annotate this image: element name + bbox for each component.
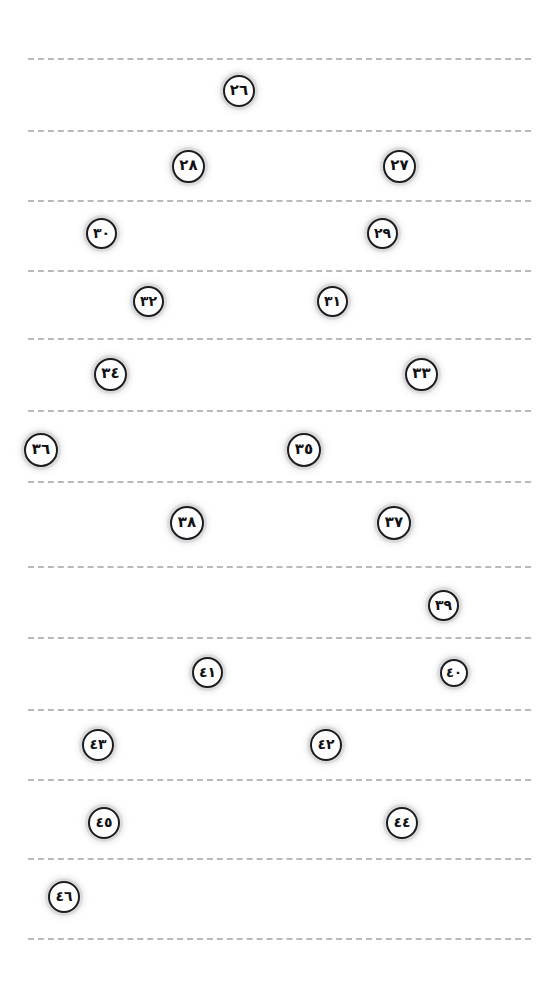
number-badge[interactable]: ٤٤ [386, 807, 418, 839]
number-badge[interactable]: ٢٦ [223, 75, 255, 107]
number-badge[interactable]: ٣٢ [133, 286, 164, 317]
number-badge[interactable]: ٤٦ [48, 881, 80, 913]
number-badge-label: ٣١ [324, 294, 341, 308]
number-badge[interactable]: ٢٩ [367, 218, 398, 249]
dashed-rule-line [28, 709, 531, 711]
number-badge-label: ٣٧ [385, 515, 403, 530]
number-badge-label: ٢٩ [374, 226, 391, 240]
number-badge-label: ٣٤ [101, 366, 119, 381]
number-badge-label: ٣٣ [412, 366, 430, 381]
number-badge-label: ٣٩ [435, 598, 452, 612]
number-badge-label: ٤٣ [89, 737, 106, 751]
number-badge[interactable]: ٢٧ [383, 150, 416, 183]
number-badge-label: ٤٢ [317, 737, 334, 751]
number-badge-label: ٤٠ [446, 666, 462, 679]
dashed-rule-line [28, 779, 531, 781]
number-badge-label: ٣٨ [178, 515, 196, 530]
dashed-rule-line [28, 200, 531, 202]
number-badge[interactable]: ٣٩ [428, 590, 459, 621]
number-badge[interactable]: ٤٣ [82, 729, 114, 761]
number-badge-label: ٢٦ [230, 83, 248, 98]
number-badge[interactable]: ٢٨ [172, 150, 205, 183]
number-badge[interactable]: ٤٠ [440, 659, 468, 687]
worksheet-page: ٢٦٢٨٢٧٣٠٢٩٣٢٣١٣٤٣٣٣٦٣٥٣٨٣٧٣٩٤١٤٠٤٣٤٢٤٥٤٤… [0, 0, 559, 987]
number-badge-label: ٣٠ [93, 226, 110, 240]
number-badge-label: ٢٨ [179, 158, 197, 173]
number-badge[interactable]: ٤١ [192, 657, 223, 688]
number-badge[interactable]: ٤٥ [88, 807, 120, 839]
number-badge-label: ٣٦ [32, 442, 50, 457]
dashed-rule-line [28, 58, 531, 60]
dashed-rule-line [28, 481, 531, 483]
number-badge[interactable]: ٣٠ [86, 218, 117, 249]
number-badge-label: ٤٥ [95, 815, 112, 829]
number-badge-label: ٤٦ [55, 889, 72, 903]
dashed-rule-line [28, 938, 531, 940]
dashed-rule-line [28, 130, 531, 132]
number-badge-label: ٤٤ [393, 815, 410, 829]
number-badge[interactable]: ٣١ [317, 286, 348, 317]
number-badge-label: ٤١ [199, 665, 216, 679]
number-badge[interactable]: ٣٤ [94, 358, 127, 391]
dashed-rule-line [28, 270, 531, 272]
number-badge[interactable]: ٣٦ [24, 433, 58, 467]
number-badge-label: ٣٢ [140, 294, 157, 308]
dashed-rule-line [28, 566, 531, 568]
number-badge[interactable]: ٣٧ [377, 506, 411, 540]
dashed-rule-line [28, 338, 531, 340]
number-badge-label: ٣٥ [295, 442, 313, 457]
number-badge[interactable]: ٣٣ [405, 358, 438, 391]
dashed-rule-line [28, 410, 531, 412]
number-badge[interactable]: ٤٢ [310, 729, 342, 761]
dashed-rule-line [28, 858, 531, 860]
number-badge[interactable]: ٣٥ [287, 433, 321, 467]
number-badge[interactable]: ٣٨ [170, 506, 204, 540]
number-badge-label: ٢٧ [390, 158, 408, 173]
dashed-rule-line [28, 637, 531, 639]
